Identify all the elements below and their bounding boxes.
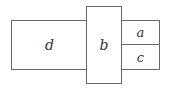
rect-c: c xyxy=(121,44,160,70)
label-a: a xyxy=(137,25,145,40)
label-d: d xyxy=(45,37,54,53)
rect-a: a xyxy=(121,20,160,45)
rect-b: b xyxy=(86,6,122,84)
rect-d: d xyxy=(11,20,88,70)
label-c: c xyxy=(137,50,144,65)
label-b: b xyxy=(100,37,109,53)
